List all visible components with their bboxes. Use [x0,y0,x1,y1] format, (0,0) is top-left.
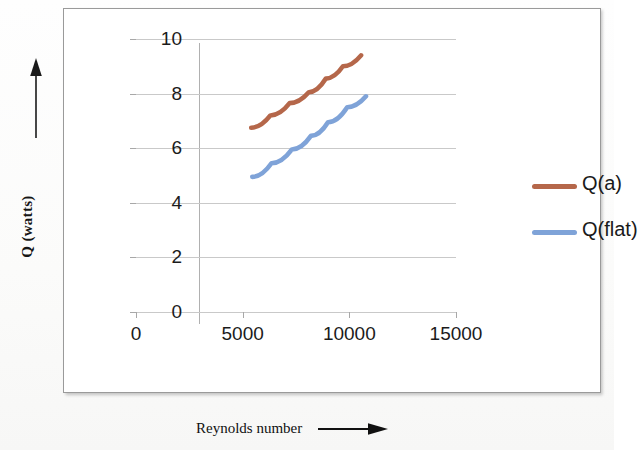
up-arrow-icon [29,58,43,138]
y-axis-title: Q (watts) [19,162,36,292]
y-tick-label: 2 [122,246,182,268]
chart-legend: Q(a)Q(flat) [532,172,642,264]
y-tick-label: 0 [122,301,182,323]
legend-swatch [532,184,577,189]
legend-swatch [532,230,577,235]
y-tick-label: 8 [122,83,182,105]
x-tick-mark [243,312,244,318]
right-arrow-icon [318,422,388,436]
series-line-qa [251,55,361,127]
y-axis-line [199,43,200,324]
x-axis-title-group: Reynolds number [196,420,388,437]
legend-item: Q(a) [532,172,642,218]
x-tick-label: 5000 [183,323,303,345]
x-tick-mark [456,312,457,318]
legend-item: Q(flat) [532,218,642,264]
gridline-y [136,94,456,95]
x-tick-mark [136,312,137,318]
gridline-y [136,39,456,40]
x-tick-mark [349,312,350,318]
series-line-qflat [252,96,366,177]
y-tick-label: 10 [122,28,182,50]
x-tick-label: 0 [76,323,196,345]
x-tick-label: 10000 [289,323,409,345]
gridline-y [136,148,456,149]
gridline-y [136,257,456,258]
y-tick-label: 6 [122,137,182,159]
gridline-y [136,203,456,204]
x-tick-label: 15000 [396,323,516,345]
x-axis-title: Reynolds number [196,420,302,437]
y-tick-label: 4 [122,192,182,214]
legend-label: Q(flat) [582,218,638,241]
chart-frame: 0246810 050001000015000 Q(a)Q(flat) [63,8,601,393]
legend-label: Q(a) [582,172,622,195]
gridline-y [136,312,456,313]
